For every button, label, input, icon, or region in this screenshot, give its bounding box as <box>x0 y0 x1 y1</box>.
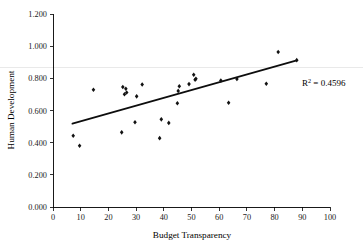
data-point-marker <box>124 86 128 91</box>
data-point-marker <box>158 136 162 141</box>
data-point-marker <box>192 72 196 77</box>
y-tick-label: 0.200 <box>28 171 47 180</box>
x-tick-label: 0 <box>51 213 55 222</box>
data-point-marker <box>176 101 180 106</box>
data-point-marker <box>167 121 171 126</box>
data-point-marker <box>176 89 180 94</box>
data-point-marker <box>92 87 96 92</box>
x-tick-label: 60 <box>215 213 223 222</box>
data-point-marker <box>135 94 139 99</box>
data-point-marker <box>160 117 164 122</box>
regression-line <box>72 60 296 123</box>
data-point-marker <box>276 50 280 55</box>
data-point-marker <box>295 58 299 63</box>
data-points <box>71 50 298 148</box>
scatter-chart: 0.0000.2000.4000.6000.8001.0001.200 0102… <box>0 0 363 251</box>
y-tick-label: 0.600 <box>28 107 47 116</box>
r-squared-annotation: R2 = 0.4596 <box>302 77 346 88</box>
data-point-marker <box>140 82 144 87</box>
data-point-marker <box>120 130 124 135</box>
y-axis-title: Human Development <box>6 70 16 149</box>
x-axis-title: Budget Transparency <box>153 230 232 240</box>
x-tick-label: 90 <box>298 213 306 222</box>
data-point-marker <box>227 100 231 105</box>
x-axis-ticks: 0102030405060708090100 <box>51 207 336 222</box>
data-point-marker <box>178 84 182 89</box>
y-tick-label: 0.400 <box>28 139 47 148</box>
y-tick-label: 0.800 <box>28 74 47 83</box>
data-point-marker <box>187 82 191 87</box>
r-squared-value: = 0.4596 <box>311 78 346 88</box>
trend-line <box>72 60 296 123</box>
x-tick-label: 30 <box>132 213 140 222</box>
x-tick-label: 10 <box>77 213 85 222</box>
x-tick-label: 70 <box>243 213 251 222</box>
y-tick-label: 1.000 <box>28 42 47 51</box>
data-point-marker <box>71 133 75 138</box>
y-axis-ticks: 0.0000.2000.4000.6000.8001.0001.200 <box>28 10 53 212</box>
x-tick-label: 100 <box>324 213 336 222</box>
x-tick-label: 40 <box>160 213 168 222</box>
data-point-marker <box>133 120 137 125</box>
chart-canvas: 0.0000.2000.4000.6000.8001.0001.200 0102… <box>0 0 363 251</box>
y-tick-label: 0.000 <box>28 203 47 212</box>
data-point-marker <box>121 85 125 90</box>
data-point-marker <box>264 82 268 87</box>
y-tick-label: 1.200 <box>28 10 47 19</box>
axes <box>53 14 330 207</box>
x-tick-label: 80 <box>270 213 278 222</box>
data-point-marker <box>78 143 82 148</box>
x-tick-label: 20 <box>104 213 112 222</box>
x-tick-label: 50 <box>187 213 195 222</box>
